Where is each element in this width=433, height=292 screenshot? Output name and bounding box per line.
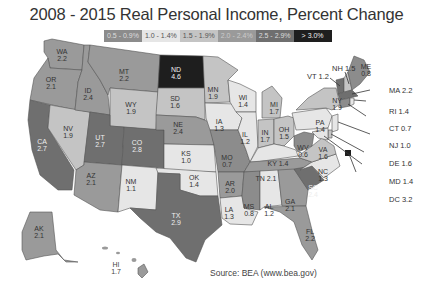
label-AK: AK2.1 xyxy=(34,225,44,239)
label-FL: FL2.2 xyxy=(305,228,315,242)
label-WA: WA2.2 xyxy=(56,48,67,62)
label-LA: LA1.3 xyxy=(224,206,234,220)
label-NV: NV1.9 xyxy=(63,125,73,139)
callout-MA: MA 2.2 xyxy=(389,86,412,95)
label-OH: OH1.5 xyxy=(279,126,290,140)
label-KS: KS1.0 xyxy=(181,150,191,164)
state-ND[interactable] xyxy=(158,55,205,88)
label-WY: WY1.9 xyxy=(125,101,137,115)
label-TX: TX2.9 xyxy=(171,212,181,226)
label-ME: ME0.8 xyxy=(361,63,372,77)
state-NJ[interactable] xyxy=(332,114,338,132)
callout-VT: VT 1.2 xyxy=(307,72,329,81)
label-MO: MO0.7 xyxy=(221,154,233,168)
state-RI[interactable] xyxy=(350,98,354,106)
label-KY: KY 1.4 xyxy=(268,160,289,167)
label-IN: IN1.7 xyxy=(260,129,270,143)
label-ND: ND4.6 xyxy=(171,66,181,80)
label-MN: MN1.9 xyxy=(208,86,219,100)
label-SC: SC2.4 xyxy=(308,184,318,198)
label-UT: UT2.7 xyxy=(95,134,105,148)
state-PA[interactable] xyxy=(292,108,332,130)
label-VA: VA1.6 xyxy=(318,146,328,160)
callout-CT: CT 0.7 xyxy=(389,124,411,133)
state-AK[interactable] xyxy=(22,212,78,262)
label-MS: MS0.8 xyxy=(244,203,255,217)
callout-DE: DE 1.6 xyxy=(389,159,412,168)
callout-DC: DC 3.2 xyxy=(389,195,412,204)
label-CA: CA2.7 xyxy=(37,138,47,152)
callout-NH: NH 1.5 xyxy=(332,64,355,73)
label-HI: HI1.7 xyxy=(111,261,121,275)
state-CO[interactable] xyxy=(122,127,164,168)
callout-MD: MD 1.4 xyxy=(389,177,413,186)
label-GA: GA2.1 xyxy=(285,198,295,212)
us-map: WA2.2 OR2.1 CA2.7 NV1.9 ID2.4 MT2.2 WY1.… xyxy=(0,0,433,292)
callout-NJ: NJ 1.0 xyxy=(389,141,411,150)
label-MI: MI1.7 xyxy=(269,101,279,115)
label-NY: NY1.9 xyxy=(332,97,342,111)
label-WI: WI1.4 xyxy=(238,94,248,108)
label-AZ: AZ2.1 xyxy=(86,172,96,186)
label-PA: PA1.4 xyxy=(315,119,325,133)
label-NE: NE2.4 xyxy=(173,121,183,135)
callout-RI: RI 1.4 xyxy=(389,107,409,116)
label-AR: AR2.0 xyxy=(225,180,235,194)
state-AZ[interactable] xyxy=(74,162,122,212)
state-NM[interactable] xyxy=(118,165,158,212)
label-TN: TN 2.1 xyxy=(255,175,276,182)
label-ID: ID2.4 xyxy=(83,87,93,101)
label-WV: WV0.6 xyxy=(297,144,309,158)
label-AL: AL1.2 xyxy=(264,203,274,217)
label-OK: OK1.4 xyxy=(189,174,199,188)
state-HI[interactable] xyxy=(102,247,148,279)
label-SD: SD1.6 xyxy=(170,95,180,109)
label-CO: CO2.8 xyxy=(132,139,143,153)
source-note: Source: BEA (www.bea.gov) xyxy=(210,268,317,278)
label-NM: NM1.1 xyxy=(126,178,137,192)
label-NC: NC1.3 xyxy=(318,168,328,182)
label-MT: MT2.2 xyxy=(119,68,130,82)
label-OR: OR2.1 xyxy=(46,76,57,90)
